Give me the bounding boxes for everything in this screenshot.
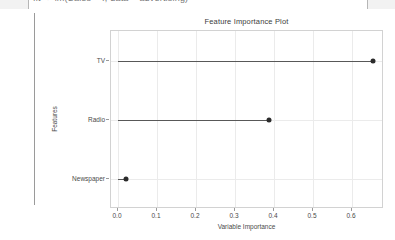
x-tick-mark-3 [234, 208, 235, 211]
y-axis-title: Features [51, 106, 58, 132]
gridline-x-3 [235, 31, 236, 207]
x-tick-label-4: 0.4 [268, 212, 277, 219]
plot-panel [110, 30, 383, 208]
gridline-x-6 [352, 31, 353, 207]
y-tick-label-tv: TV [97, 56, 105, 63]
figure-left-rule [34, 13, 35, 205]
gridline-y-newspaper [111, 179, 382, 180]
x-tick-mark-4 [273, 208, 274, 211]
segment-radio [118, 120, 269, 121]
y-tick-mark-tv [106, 60, 109, 61]
x-tick-mark-2 [195, 208, 196, 211]
x-tick-label-0: 0.0 [112, 212, 121, 219]
x-axis-title: Variable Importance [110, 223, 383, 230]
x-tick-mark-0 [117, 208, 118, 211]
code-cell-text: fit <- lm(Sales ~ ., data = advertising) [33, 0, 188, 3]
x-tick-label-2: 0.2 [190, 212, 199, 219]
chart-title: Feature Importance Plot [110, 17, 383, 26]
data-point-newspaper[interactable] [123, 177, 128, 182]
figure-container: Feature Importance Plot Features Newspap… [0, 9, 395, 240]
gridline-x-5 [313, 31, 314, 207]
x-tick-label-6: 0.6 [346, 212, 355, 219]
gridline-x-2 [196, 31, 197, 207]
data-point-radio[interactable] [266, 118, 271, 123]
y-tick-label-radio: Radio [88, 116, 105, 123]
screenshot-root: fit <- lm(Sales ~ ., data = advertising)… [0, 0, 395, 240]
x-tick-label-1: 0.1 [151, 212, 160, 219]
gridline-x-1 [157, 31, 158, 207]
x-tick-label-3: 0.3 [229, 212, 238, 219]
data-point-tv[interactable] [371, 58, 376, 63]
x-tick-mark-1 [156, 208, 157, 211]
x-tick-mark-5 [312, 208, 313, 211]
gridline-x-4 [274, 31, 275, 207]
y-tick-mark-radio [106, 119, 109, 120]
y-tick-label-newspaper: Newspaper [72, 175, 105, 182]
x-tick-label-5: 0.5 [307, 212, 316, 219]
x-tick-mark-6 [351, 208, 352, 211]
y-tick-mark-newspaper [106, 178, 109, 179]
gridline-x-0 [118, 31, 119, 207]
segment-tv [118, 61, 373, 62]
